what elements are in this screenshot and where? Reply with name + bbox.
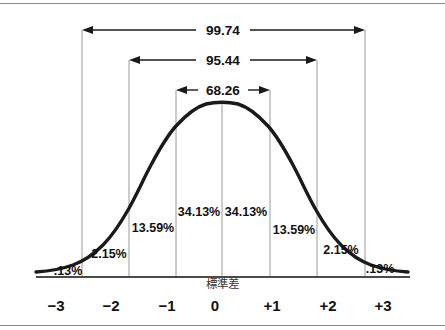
span-middle-label: 95.44 — [206, 53, 240, 68]
x-tick-label-minus-3: −3 — [47, 297, 64, 314]
region-label-band-right-2: 2.15% — [323, 243, 358, 257]
x-tick-label-zero: 0 — [211, 297, 219, 314]
region-label-band-left-1: 13.59% — [132, 221, 174, 235]
x-tick-label-plus-2: +2 — [319, 297, 336, 314]
x-axis-title: 標準差 — [206, 277, 239, 291]
span-middle-arrowhead-right — [306, 56, 317, 64]
region-label-band-left-2: 2.15% — [91, 247, 126, 261]
x-tick-label-plus-1: +1 — [263, 297, 280, 314]
region-label-band-right-1: 13.59% — [273, 223, 315, 237]
span-annotation-middle: 95.44 — [129, 53, 317, 68]
bell-curve-figure: 99.74 95.44 68.26 .13% 2.15% 13.59% 34.1… — [0, 0, 445, 330]
normal-distribution-chart: 99.74 95.44 68.26 .13% 2.15% 13.59% 34.1… — [0, 0, 445, 330]
span-outer-arrowhead-left — [82, 26, 93, 34]
span-annotation-outer: 99.74 — [82, 23, 365, 38]
span-inner-arrowhead-right — [259, 86, 270, 94]
x-tick-label-plus-3: +3 — [374, 297, 391, 314]
region-label-tail-left: .13% — [54, 264, 83, 278]
span-outer-label: 99.74 — [206, 23, 240, 38]
span-annotation-inner: 68.26 — [176, 83, 270, 98]
span-inner-label: 68.26 — [206, 83, 240, 98]
region-label-core-left: 34.13% — [178, 205, 220, 219]
region-label-tail-right: .13% — [366, 262, 395, 276]
x-tick-label-minus-2: −2 — [102, 297, 119, 314]
span-inner-arrowhead-left — [176, 86, 187, 94]
x-tick-label-minus-1: −1 — [158, 297, 175, 314]
span-outer-arrowhead-right — [354, 26, 365, 34]
region-label-core-right: 34.13% — [225, 205, 267, 219]
span-middle-arrowhead-left — [129, 56, 140, 64]
